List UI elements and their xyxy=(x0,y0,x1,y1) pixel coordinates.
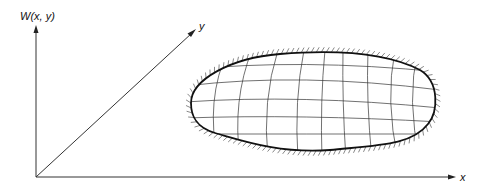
y-axis xyxy=(36,33,192,177)
x-axis-arrowhead-icon xyxy=(448,175,456,180)
plate-deflection-diagram: W(x, y) y x xyxy=(0,0,479,187)
clamped-boundary xyxy=(191,52,435,150)
x-axis-label: x xyxy=(459,171,466,183)
axes xyxy=(34,25,457,180)
y-axis-label: y xyxy=(198,20,206,32)
w-axis-label: W(x, y) xyxy=(20,10,55,22)
w-axis-arrowhead-icon xyxy=(34,25,39,33)
